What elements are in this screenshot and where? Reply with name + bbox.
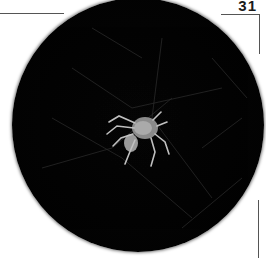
spider-icon bbox=[107, 112, 169, 166]
web-strands bbox=[12, 0, 264, 252]
circular-photo bbox=[12, 0, 264, 252]
